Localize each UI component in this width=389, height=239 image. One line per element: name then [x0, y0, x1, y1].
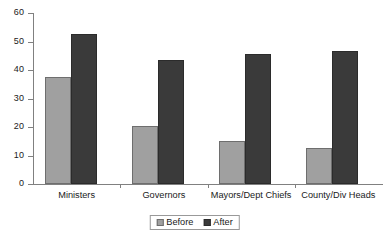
chart-legend: BeforeAfter	[149, 215, 239, 230]
y-axis-tick-label: 30	[2, 94, 24, 103]
bar-before	[45, 77, 71, 184]
y-axis-tick-label: 10	[2, 151, 24, 160]
x-axis-separator-tick	[208, 184, 209, 188]
legend-entry-before[interactable]: Before	[156, 217, 193, 227]
y-axis-tick-label: 50	[2, 37, 24, 46]
legend-entry-after[interactable]: After	[203, 217, 232, 227]
x-axis-separator-tick	[120, 184, 121, 188]
bar-before	[132, 126, 158, 184]
legend-label: Before	[166, 217, 193, 227]
bar-after	[332, 51, 358, 184]
bar-after	[245, 54, 271, 184]
x-axis-separator-tick	[295, 184, 296, 188]
legend-swatch-before-icon	[156, 219, 163, 226]
legend-swatch-after-icon	[203, 219, 210, 226]
y-axis-tick-label: 20	[2, 122, 24, 131]
x-axis-category-label: County/Div Heads	[295, 190, 382, 201]
y-axis-tick-label: 60	[2, 8, 24, 17]
y-axis-tick-label: 0	[2, 179, 24, 188]
plot-area	[33, 13, 382, 184]
bar-before	[219, 141, 245, 184]
legend-label: After	[213, 217, 232, 227]
x-axis-category-label: Governors	[120, 190, 207, 201]
bar-after	[71, 34, 97, 184]
x-axis-category-label: Ministers	[33, 190, 120, 201]
bar-chart-figure: 6050403020100 MinistersGovernorsMayors/D…	[0, 0, 389, 239]
bar-after	[158, 60, 184, 184]
y-axis-tick-label: 40	[2, 65, 24, 74]
bar-before	[306, 148, 332, 184]
y-axis-tick	[28, 184, 33, 185]
x-axis-category-label: Mayors/Dept Chiefs	[208, 190, 295, 201]
